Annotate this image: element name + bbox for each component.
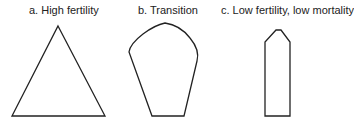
triangle-shape [12,26,105,116]
transition-shape [129,23,198,116]
column-shape [265,30,290,116]
